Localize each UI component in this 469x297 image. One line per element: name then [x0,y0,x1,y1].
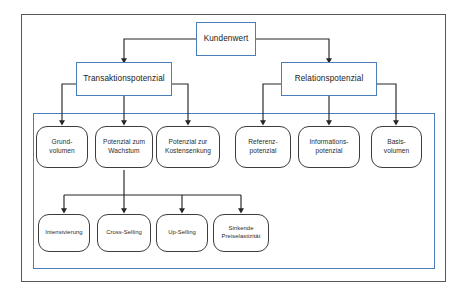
node-intensivierung-label: Intensivierung [43,229,84,237]
node-potenzial-kostensenkung-label: Potenzial zur Kostensenkung [163,138,213,155]
node-kundenwert-label: Kundenwert [202,34,251,43]
node-informationspotenzial[interactable]: Informations- potenzial [298,126,360,168]
node-basisvolumen-label: Basis- volumen [382,138,411,155]
diagram-canvas: Kundenwert Transaktionspotenzial Relatio… [0,0,469,297]
node-sinkende-preiselastizitaet[interactable]: Sinkende Preiselastizität [213,214,269,252]
node-basisvolumen[interactable]: Basis- volumen [371,126,422,168]
node-grundvolumen-label: Grund- volumen [47,138,76,155]
node-potenzial-kostensenkung[interactable]: Potenzial zur Kostensenkung [156,126,220,168]
node-cross-selling-label: Cross-Selling [104,229,144,237]
node-relationspotenzial-label: Relationspotenzial [293,74,366,83]
node-up-selling-label: Up-Selling [166,229,198,237]
node-grundvolumen[interactable]: Grund- volumen [36,126,88,168]
node-sinkende-preiselastizitaet-label: Sinkende Preiselastizität [220,225,263,241]
node-kundenwert[interactable]: Kundenwert [196,22,256,56]
node-transaktionspotenzial-label: Transaktionspotenzial [81,74,166,83]
node-referenzpotenzial[interactable]: Referenz- potenzial [235,126,291,168]
node-transaktionspotenzial[interactable]: Transaktionspotenzial [76,62,172,96]
node-up-selling[interactable]: Up-Selling [156,214,208,252]
node-referenzpotenzial-label: Referenz- potenzial [246,138,279,155]
node-relationspotenzial[interactable]: Relationspotenzial [281,62,377,96]
node-cross-selling[interactable]: Cross-Selling [97,214,151,252]
node-intensivierung[interactable]: Intensivierung [38,214,90,252]
node-potenzial-wachstum[interactable]: Potenzial zum Wachstum [95,126,153,168]
node-potenzial-wachstum-label: Potenzial zum Wachstum [101,138,147,155]
node-informationspotenzial-label: Informations- potenzial [307,138,350,155]
